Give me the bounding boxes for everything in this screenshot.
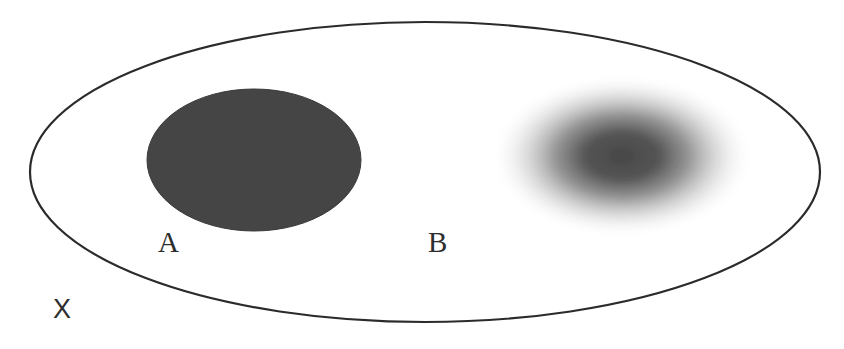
- label-a: A: [158, 228, 179, 257]
- label-x: X: [53, 296, 71, 323]
- region-a-sharp-ellipse: [147, 89, 361, 231]
- set-diagram: [0, 0, 844, 349]
- region-b-fuzzy-blob: [490, 74, 754, 238]
- label-b: B: [428, 228, 447, 257]
